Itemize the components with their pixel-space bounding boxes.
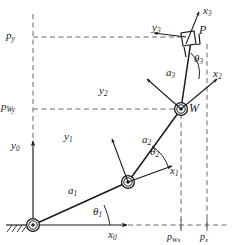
axis-label-y1: y1 <box>64 131 73 144</box>
gripper-finger-left <box>184 47 186 57</box>
axis-label-x2: x2 <box>213 68 222 81</box>
angle-label-theta2: θ2 <box>150 146 159 159</box>
link-a1 <box>33 182 128 225</box>
link-a3 <box>181 41 191 109</box>
base-frame-axes <box>6 141 127 225</box>
axis-label-y3: y3 <box>152 22 161 35</box>
local-frames <box>112 12 217 182</box>
angle-label-theta1: θ1 <box>93 206 102 219</box>
link-label-a3: a3 <box>166 67 175 80</box>
axis-label-x1: x1 <box>170 165 179 178</box>
kinematics-diagram: x0 y0 x1 y1 x2 y2 x3 y3 a1 a2 a3 θ1 θ2 θ… <box>0 0 232 245</box>
arc-theta1 <box>104 205 110 225</box>
axis-y1 <box>112 139 128 182</box>
joint-base <box>27 219 40 232</box>
coord-label-p-Wy: pWy <box>1 101 15 114</box>
axis-label-y2: y2 <box>99 85 108 98</box>
ground-hatching <box>7 225 27 232</box>
bottom-ticks <box>181 219 207 231</box>
axis-y2 <box>147 79 181 109</box>
point-label-W: W <box>189 102 199 114</box>
axis-label-x3: x3 <box>203 5 212 18</box>
angle-label-theta3: θ3 <box>194 53 203 66</box>
construction-lines <box>33 14 228 231</box>
point-label-P: P <box>199 24 206 36</box>
axis-label-x0: x0 <box>108 229 117 242</box>
axis-x2 <box>181 79 217 109</box>
diagram-canvas <box>0 0 232 245</box>
axis-label-y0: y0 <box>11 140 20 153</box>
link-label-a1: a1 <box>68 185 77 198</box>
coord-label-p-x: px <box>200 232 208 244</box>
coord-label-p-Wx: pWx <box>167 232 180 244</box>
coord-label-p-y: py <box>6 30 15 43</box>
